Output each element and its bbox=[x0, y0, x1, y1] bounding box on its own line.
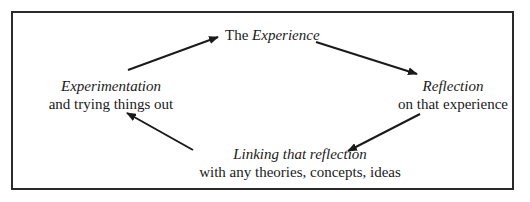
arrow-linking-to-experimentation bbox=[127, 113, 193, 150]
node-experimentation-title: Experimentation bbox=[41, 77, 181, 95]
node-linking-title: Linking that reflection bbox=[185, 145, 415, 163]
node-linking-subtitle: with any theories, concepts, ideas bbox=[185, 163, 415, 181]
node-experimentation-subtitle: and trying things out bbox=[41, 95, 181, 113]
node-experimentation: Experimentation and trying things out bbox=[41, 77, 181, 113]
node-reflection-subtitle: on that experience bbox=[388, 95, 518, 113]
node-reflection-title: Reflection bbox=[388, 77, 518, 95]
arrow-experience-to-reflection bbox=[316, 42, 417, 74]
arrow-experimentation-to-experience bbox=[128, 37, 218, 70]
node-experience-title: Experience bbox=[252, 27, 319, 43]
node-linking: Linking that reflection with any theorie… bbox=[185, 145, 415, 181]
node-reflection: Reflection on that experience bbox=[388, 77, 518, 113]
node-experience-prefix: The bbox=[225, 27, 252, 43]
node-experience: The Experience bbox=[225, 26, 325, 44]
